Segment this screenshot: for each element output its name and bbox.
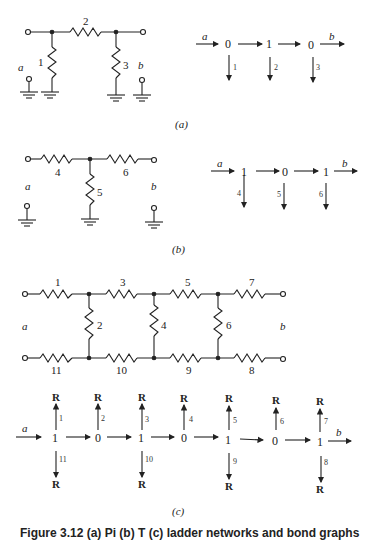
junction: 1 bbox=[241, 165, 247, 179]
bond-label: 4 bbox=[189, 415, 193, 424]
resistor-label: 9 bbox=[186, 364, 192, 376]
resistor-3-label: 3 bbox=[123, 59, 129, 71]
resistor-5-label: 5 bbox=[97, 186, 103, 198]
junction: 1 bbox=[225, 433, 231, 447]
port-b-label: b bbox=[280, 320, 286, 332]
port-b-label: b bbox=[151, 180, 157, 192]
resistor-6-label: 6 bbox=[123, 166, 129, 178]
junction: 0 bbox=[308, 38, 314, 52]
bond-label: 5 bbox=[233, 416, 237, 425]
port-a-label: a bbox=[25, 180, 31, 192]
resistor-label: 8 bbox=[249, 364, 255, 376]
resistor-label: 7 bbox=[249, 276, 255, 288]
resistor-label: 11 bbox=[51, 364, 62, 376]
bond-label: 2 bbox=[101, 414, 105, 423]
junction: 1 bbox=[317, 435, 323, 449]
junction: 0 bbox=[181, 431, 187, 445]
bond-label: 6 bbox=[319, 190, 323, 199]
bond-output-label: b bbox=[336, 426, 342, 438]
bond-label: 1 bbox=[233, 63, 237, 72]
junction: 0 bbox=[272, 434, 278, 448]
resistor-label: 2 bbox=[97, 319, 103, 331]
part-b-label: (b) bbox=[172, 243, 185, 256]
bond-label: 4 bbox=[237, 189, 241, 198]
resistor-label: 5 bbox=[185, 276, 191, 288]
bond-label: 11 bbox=[59, 455, 67, 464]
bond-label: 1 bbox=[59, 414, 63, 423]
bond-label: 9 bbox=[233, 457, 237, 466]
resistor-element: R bbox=[180, 392, 189, 404]
junction: 0 bbox=[282, 165, 288, 179]
junction: 0 bbox=[225, 37, 231, 51]
port-a-label: a bbox=[22, 320, 28, 332]
resistor-element: R bbox=[225, 392, 234, 404]
junction: 1 bbox=[323, 165, 329, 179]
resistor-element: R bbox=[272, 394, 281, 406]
resistor-label: 3 bbox=[120, 276, 126, 288]
bond-label: 3 bbox=[316, 63, 320, 72]
bond-label: 10 bbox=[145, 455, 153, 464]
resistor-element: R bbox=[225, 480, 234, 492]
junction: 1 bbox=[266, 37, 272, 51]
bond-input-label: a bbox=[22, 422, 28, 434]
resistor-element: R bbox=[138, 391, 147, 403]
resistor-element: R bbox=[138, 478, 147, 490]
bond-output-label: b bbox=[342, 157, 348, 169]
bond-input-label: a bbox=[202, 30, 208, 42]
bond-label: 8 bbox=[324, 458, 328, 467]
junction: 0 bbox=[95, 431, 101, 445]
resistor-1-label: 1 bbox=[38, 56, 44, 68]
resistor-element: R bbox=[52, 391, 61, 403]
part-a-label: (a) bbox=[175, 118, 188, 131]
port-a-label: a bbox=[18, 61, 24, 73]
bond-label: 7 bbox=[324, 417, 328, 426]
part-c-label: (c) bbox=[172, 505, 185, 518]
bond-input-label: a bbox=[217, 157, 223, 169]
bond-label: 5 bbox=[277, 190, 281, 199]
bond-label: 6 bbox=[280, 417, 284, 426]
resistor-label: 6 bbox=[226, 319, 232, 331]
junction: 1 bbox=[52, 431, 58, 445]
resistor-label: 10 bbox=[116, 364, 128, 376]
resistor-4-label: 4 bbox=[55, 166, 61, 178]
resistor-label: 4 bbox=[161, 319, 167, 331]
resistor-element: R bbox=[94, 391, 103, 403]
bond-label: 2 bbox=[274, 63, 278, 72]
bond-label: 3 bbox=[145, 415, 149, 424]
resistor-element: R bbox=[316, 483, 325, 495]
resistor-element: R bbox=[52, 478, 61, 490]
figure-caption: Figure 3.12 (a) Pi (b) T (c) ladder netw… bbox=[20, 526, 359, 540]
resistor-label: 1 bbox=[55, 276, 61, 288]
junction: 1 bbox=[138, 431, 144, 445]
port-b-label: b bbox=[138, 59, 144, 71]
resistor-element: R bbox=[316, 395, 325, 407]
resistor-2-label: 2 bbox=[83, 15, 89, 27]
bond-output-label: b bbox=[329, 30, 335, 42]
